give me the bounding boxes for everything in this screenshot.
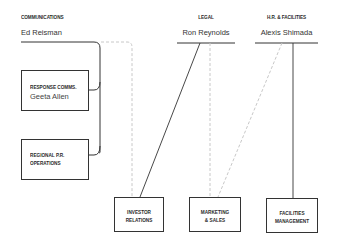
dashed-hr-to-marketing <box>218 43 282 197</box>
investor-relations-label: Investor Relations <box>120 208 157 224</box>
hr-facilities-label: H.R. & Facilities <box>262 14 311 20</box>
regional-pr-label-line2: Operations <box>30 159 61 167</box>
facilities-management-label: Facilities Management <box>273 209 312 225</box>
marketing-sales-box[interactable]: Marketing & Sales <box>189 197 241 232</box>
solid-legal-to-investor <box>140 43 200 197</box>
response-comms-head: Geeta Allen <box>30 92 69 101</box>
response-comms-box[interactable]: Response Comms. Geeta Allen <box>21 70 89 111</box>
communications-label: Communications <box>21 14 63 20</box>
dashed-comm-to-investor <box>101 42 132 197</box>
response-comms-label: Response Comms. <box>30 83 77 91</box>
bracket-to-regional-pr <box>88 146 100 155</box>
hr-facilities-head: Alexis Shimada <box>255 28 318 37</box>
marketing-sales-label: Marketing & Sales <box>196 208 235 224</box>
legal-head: Ron Reynolds <box>177 28 235 37</box>
communications-head: Ed Reisman <box>21 28 62 37</box>
legal-label: Legal <box>183 14 228 20</box>
facilities-management-box[interactable]: Facilities Management <box>266 198 318 233</box>
regional-pr-label-line1: Regional P.R. <box>30 151 64 159</box>
regional-pr-box[interactable]: Regional P.R. Operations <box>21 139 89 180</box>
investor-relations-box[interactable]: Investor Relations <box>114 197 164 232</box>
bracket-to-response-comms <box>88 82 100 90</box>
